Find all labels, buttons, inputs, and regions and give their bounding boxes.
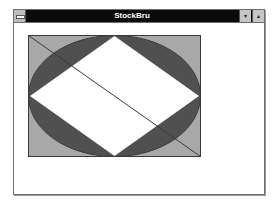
minimize-arrow-icon: ▾ xyxy=(244,13,247,19)
title-bar[interactable]: StockBru ▾ ▴ xyxy=(14,10,264,23)
system-menu-button[interactable] xyxy=(14,10,26,22)
maximize-button[interactable]: ▴ xyxy=(252,10,264,22)
system-menu-icon xyxy=(16,15,25,19)
client-area xyxy=(14,23,264,194)
window-title: StockBru xyxy=(26,10,238,22)
app-window: StockBru ▾ ▴ xyxy=(13,9,265,195)
maximize-arrow-icon: ▴ xyxy=(257,13,260,19)
drawing-canvas xyxy=(28,35,202,158)
minimize-button[interactable]: ▾ xyxy=(239,10,251,22)
